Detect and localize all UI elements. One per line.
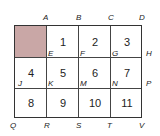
point-label: S	[76, 121, 81, 130]
point-label: H	[146, 49, 152, 58]
cell-label: 1	[47, 36, 79, 48]
cell-label: 11	[111, 97, 143, 109]
point-label: M	[80, 79, 87, 88]
cell-label: 4	[15, 67, 47, 79]
grid-frame: 1 2 3 4 5 6 7 8 9 10 11	[14, 25, 142, 118]
point-label: K	[48, 79, 53, 88]
point-label: G	[112, 49, 118, 58]
point-label: E	[48, 49, 53, 58]
point-label: J	[18, 79, 22, 88]
cell-label: 2	[79, 36, 111, 48]
point-label: T	[107, 121, 112, 130]
cell-label: 3	[111, 36, 143, 48]
cell-label: 9	[47, 97, 79, 109]
point-label: N	[112, 79, 118, 88]
point-label: C	[108, 13, 114, 22]
cell-label: 8	[15, 97, 47, 109]
point-label: A	[43, 13, 48, 22]
point-label: B	[76, 13, 81, 22]
point-label: R	[44, 121, 50, 130]
cell-label: 10	[79, 97, 111, 109]
grid-line	[15, 57, 141, 58]
cell-label: 5	[47, 67, 79, 79]
cell-label: 6	[79, 67, 111, 79]
point-label: F	[80, 49, 85, 58]
cell-label: 7	[111, 67, 143, 79]
point-label: D	[139, 13, 145, 22]
point-label: V	[139, 121, 144, 130]
point-label: P	[146, 79, 151, 88]
grid-line	[15, 88, 141, 89]
point-label: Q	[10, 121, 16, 130]
shaded-cell	[15, 26, 47, 57]
